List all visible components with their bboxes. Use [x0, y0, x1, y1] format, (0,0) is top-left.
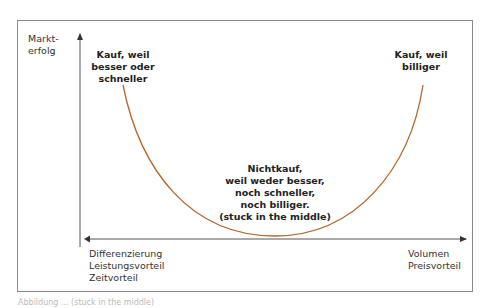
figure-caption: Abbildung ... (stuck in the middle) — [18, 298, 154, 307]
x-axis-left-label: Differenzierung Leistungsvorteil Zeitvor… — [89, 248, 165, 284]
x-axis-right-label: Volumen Preisvorteil — [408, 248, 461, 272]
left-peak-label: Kauf, weil besser oder schneller — [75, 49, 171, 85]
right-peak-label: Kauf, weil billiger — [373, 49, 469, 73]
x-axis-left-arrow-icon — [84, 236, 90, 243]
y-axis-label: Markt- erfolg — [28, 33, 59, 57]
trough-label: Nichtkauf, weil weder besser, noch schne… — [190, 163, 360, 223]
